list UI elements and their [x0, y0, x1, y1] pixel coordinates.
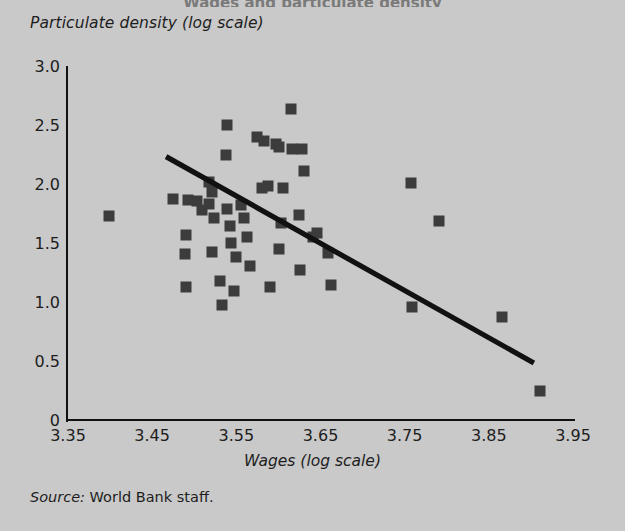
- data-point: [311, 227, 322, 238]
- y-tick-label: 3.0: [14, 57, 60, 76]
- data-point: [230, 251, 241, 262]
- data-point: [225, 238, 236, 249]
- source-keyword: Source:: [30, 489, 85, 505]
- y-axis-label: Particulate density (log scale): [30, 14, 264, 32]
- data-point: [262, 181, 273, 192]
- plot-area: [68, 66, 573, 420]
- data-point: [433, 216, 444, 227]
- x-axis-label: Wages (log scale): [0, 452, 625, 470]
- data-point: [278, 183, 289, 194]
- data-point: [235, 200, 246, 211]
- data-point: [181, 229, 192, 240]
- data-point: [258, 135, 269, 146]
- data-point: [167, 193, 178, 204]
- data-point: [181, 282, 192, 293]
- y-tick-label: 1.5: [14, 234, 60, 253]
- source-text: World Bank staff.: [85, 489, 214, 505]
- data-point: [209, 212, 220, 223]
- data-point: [294, 210, 305, 221]
- x-tick-label: 3.65: [291, 426, 351, 445]
- data-point: [326, 280, 337, 291]
- data-point: [225, 221, 236, 232]
- data-point: [265, 282, 276, 293]
- data-point: [286, 103, 297, 114]
- data-point: [273, 244, 284, 255]
- data-point: [275, 218, 286, 229]
- data-point: [323, 248, 334, 259]
- data-point: [179, 248, 190, 259]
- data-point: [534, 386, 545, 397]
- x-tick-label: 3.35: [38, 426, 98, 445]
- x-tick-label: 3.55: [206, 426, 266, 445]
- y-tick-label: 1.0: [14, 293, 60, 312]
- x-tick-label: 3.95: [543, 426, 603, 445]
- y-tick-label: 2.5: [14, 116, 60, 135]
- data-point: [239, 212, 250, 223]
- y-tick-label: 0.5: [14, 352, 60, 371]
- data-point: [405, 178, 416, 189]
- data-point: [245, 261, 256, 272]
- data-point: [294, 265, 305, 276]
- data-point: [222, 119, 233, 130]
- data-point: [406, 301, 417, 312]
- clipped-title: Wages and particulate density: [0, 0, 625, 7]
- data-point: [220, 149, 231, 160]
- x-tick-label: 3.45: [122, 426, 182, 445]
- data-point: [297, 143, 308, 154]
- x-tick-label: 3.75: [375, 426, 435, 445]
- x-tick-label: 3.85: [459, 426, 519, 445]
- data-point: [216, 300, 227, 311]
- data-point: [496, 311, 507, 322]
- data-point: [207, 246, 218, 257]
- data-point: [222, 204, 233, 215]
- data-point: [103, 210, 114, 221]
- data-point: [241, 231, 252, 242]
- data-point: [273, 141, 284, 152]
- figure-panel: Wages and particulate density Particulat…: [0, 0, 625, 531]
- data-point: [299, 165, 310, 176]
- data-point: [214, 275, 225, 286]
- data-point: [207, 187, 218, 198]
- y-tick-label: 2.0: [14, 175, 60, 194]
- data-point: [203, 198, 214, 209]
- source-note: Source: World Bank staff.: [30, 489, 214, 505]
- data-point: [229, 286, 240, 297]
